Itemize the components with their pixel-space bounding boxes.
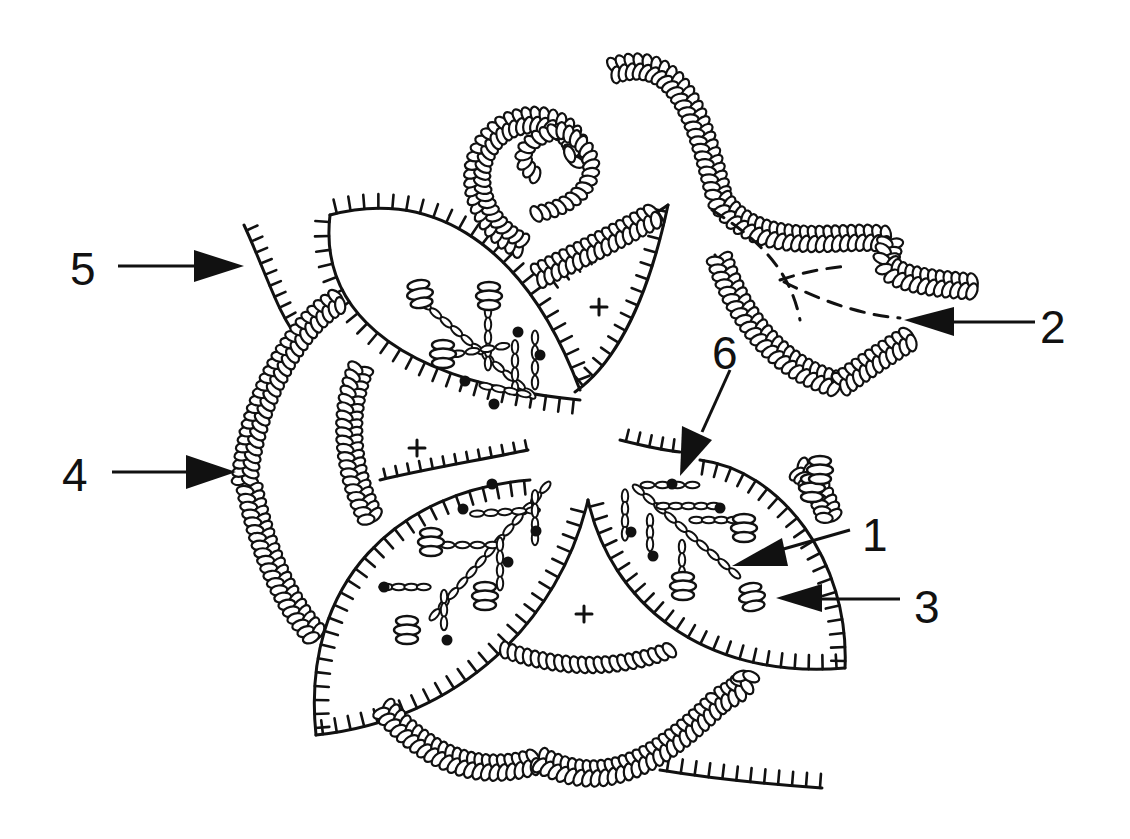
embroidery-diagram: 5 4 2 6 1 3 [0,0,1130,839]
diagram-artwork [0,0,1130,839]
callout-arrow-2 [904,307,1035,336]
callout-label-2: 2 [1040,304,1066,350]
callout-label-4: 4 [62,452,88,498]
callout-arrow-3 [776,584,900,612]
chain-stitch-tendrils [230,52,980,788]
callout-arrow-4 [112,455,236,489]
callout-label-3: 3 [914,584,940,630]
callout-arrow-5 [118,250,244,282]
callout-label-6: 6 [712,330,738,376]
callout-label-5: 5 [70,246,96,292]
callout-label-1: 1 [862,512,888,558]
